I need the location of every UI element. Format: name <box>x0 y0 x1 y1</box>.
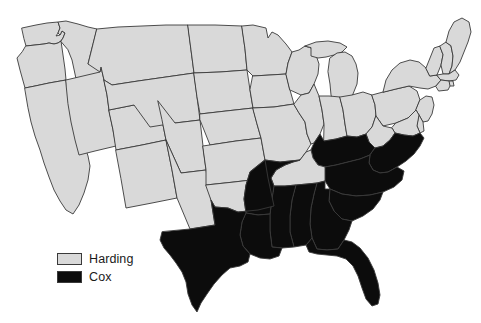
state-south-dakota[interactable] <box>194 70 253 114</box>
state-vermont[interactable] <box>426 46 443 76</box>
legend-label-harding: Harding <box>89 253 133 266</box>
map-legend: Harding Cox <box>57 251 177 287</box>
legend-label-cox: Cox <box>89 271 112 284</box>
election-map-figure: Harding Cox <box>0 0 481 323</box>
legend-swatch-harding <box>57 253 82 265</box>
legend-item-harding[interactable]: Harding <box>57 251 177 267</box>
legend-item-cox[interactable]: Cox <box>57 269 177 285</box>
state-north-dakota[interactable] <box>188 25 247 73</box>
state-florida[interactable] <box>306 238 380 306</box>
legend-swatch-cox <box>57 271 82 283</box>
state-minnesota[interactable] <box>242 25 292 76</box>
